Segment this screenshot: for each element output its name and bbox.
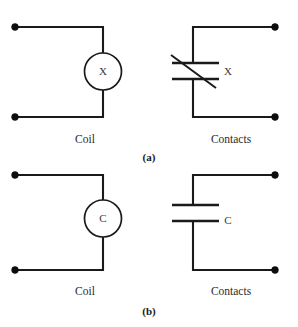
panel-a-coil-symbol-label: X <box>99 65 107 77</box>
panel-b-figure-label: (b) <box>142 305 156 318</box>
panel-a-contacts-caption: Contacts <box>211 133 252 145</box>
panel-a-contacts-terminal-top <box>272 24 279 31</box>
panel-a-coil-terminal-top <box>12 24 19 31</box>
panel-b-coil-top-wire <box>15 175 103 200</box>
panel-a-coil-terminal-bottom <box>12 114 19 121</box>
panel-a-contacts-circuit: X <box>171 24 278 121</box>
panel-a-contacts-symbol-label: X <box>224 65 232 77</box>
schematic-canvas: X X Coil Contacts (a) C <box>0 0 298 327</box>
panel-a-coil-bottom-wire <box>15 90 103 117</box>
panel-b-coil-symbol-label: C <box>99 212 106 224</box>
panel-a-contacts-terminal-bottom <box>272 114 279 121</box>
panel-b-contacts-terminal-bottom <box>272 267 279 274</box>
panel-b-coil-bottom-wire <box>15 237 103 270</box>
panel-b-contacts-top-wire <box>193 175 275 205</box>
panel-b-contacts-circuit: C <box>172 172 278 274</box>
panel-b-coil-circuit: C <box>12 172 122 274</box>
panel-b-contacts-terminal-top <box>272 172 279 179</box>
panel-a-coil-top-wire <box>15 27 103 53</box>
panel-a-coil-caption: Coil <box>75 133 95 145</box>
panel-b-contacts-symbol-label: C <box>224 214 231 226</box>
panel-b-coil-caption: Coil <box>75 285 95 297</box>
panel-a-contacts-top-wire <box>193 27 275 63</box>
panel-a-figure-label: (a) <box>143 151 156 164</box>
relay-symbols-figure: X X Coil Contacts (a) C <box>0 0 298 327</box>
panel-b-coil-terminal-bottom <box>12 267 19 274</box>
panel-a-contacts-bottom-wire <box>193 79 275 117</box>
panel-b-contacts-bottom-wire <box>193 221 275 270</box>
panel-b-contacts-caption: Contacts <box>211 285 252 297</box>
panel-b-coil-terminal-top <box>12 172 19 179</box>
panel-a-coil-circuit: X <box>12 24 122 121</box>
